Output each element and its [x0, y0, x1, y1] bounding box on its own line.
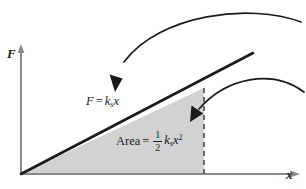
x-axis-label: x	[286, 168, 293, 181]
arrow-to-line-icon	[110, 13, 301, 92]
spring-force-area-diagram: F x F=ksx Area= 1 2 ksx2	[0, 0, 306, 189]
area-equation-lhs: Area	[116, 135, 140, 148]
y-axis	[18, 44, 25, 174]
force-equation-equals: =	[94, 94, 105, 108]
area-equation-numerator: 1	[155, 130, 160, 141]
area-equation-equals: =	[140, 135, 151, 148]
arrow-to-area-icon	[190, 79, 304, 122]
force-equation-label: F=ksx	[86, 95, 119, 109]
y-axis-label: F	[7, 47, 16, 60]
diagram-canvas	[0, 0, 306, 189]
area-equation-exponent: 2	[179, 133, 183, 142]
area-equation-label: Area= 1 2 ksx2	[116, 130, 183, 153]
force-equation-variable: x	[113, 94, 119, 108]
area-equation-denominator: 2	[155, 142, 160, 153]
area-equation-fraction: 1 2	[153, 130, 162, 153]
area-equation-rhs: ksx2	[164, 134, 182, 148]
force-equation-lhs: F	[86, 94, 94, 108]
